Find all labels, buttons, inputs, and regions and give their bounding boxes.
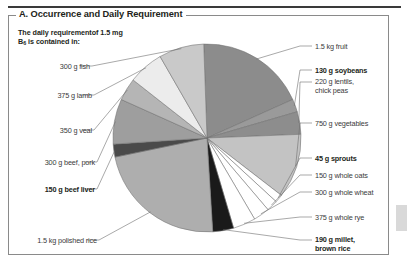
subtitle-line-2: B6 is contained in: xyxy=(18,37,80,46)
page-title: A. Occurrence and Daily Requirement xyxy=(16,9,186,19)
label-vegetables: 750 g vegetables xyxy=(315,120,368,129)
leader-line xyxy=(256,46,312,59)
label-lamb: 375 g lamb xyxy=(0,92,92,101)
leader-line xyxy=(223,230,312,240)
label-whole-rye: 375 g whole rye xyxy=(315,214,364,223)
label-polished-rice: 1.5 kg polished rice xyxy=(0,237,97,246)
label-sprouts: 45 g sprouts xyxy=(315,155,357,164)
label-soybeans: 130 g soybeans xyxy=(315,67,367,76)
leader-line xyxy=(294,70,312,106)
label-fish: 300 g fish xyxy=(0,63,90,72)
label-beef-pork: 300 g beef, pork xyxy=(0,159,95,168)
leader-line xyxy=(299,82,312,123)
label-beef-liver: 150 g beef liver xyxy=(0,186,95,195)
label-whole-wheat: 300 g whole wheat xyxy=(315,189,373,198)
figure-subtitle: The daily requirementof 1.5 mg B6 is con… xyxy=(18,29,123,46)
label-veal: 350 g veal xyxy=(0,127,92,136)
label-millet-line2: brown rice xyxy=(315,245,350,254)
label-whole-oats: 150 g whole oats xyxy=(315,172,368,181)
label-lentils-line2: chick peas xyxy=(315,87,348,96)
label-fruit: 1.5 kg fruit xyxy=(315,43,347,52)
